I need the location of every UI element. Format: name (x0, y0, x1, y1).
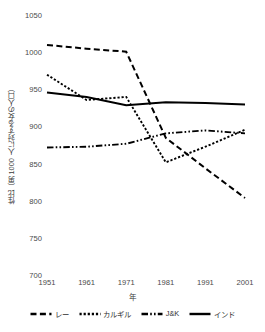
legend-label-レー: レー (55, 308, 69, 319)
sex-ratio-line-chart: 性比（男 1000 人に対する女の人口） 7007508008509009501… (0, 0, 265, 332)
chart-legend: レーカルギルJ&Kインド (0, 308, 265, 319)
legend-swatch-J&K (141, 310, 163, 318)
legend-label-インド: インド (214, 308, 235, 319)
legend-swatch-インド (189, 310, 211, 318)
legend-item-カルギル[interactable]: カルギル (79, 308, 132, 319)
plot-area (0, 0, 265, 332)
series-line-カルギル (47, 75, 245, 163)
legend-item-レー[interactable]: レー (30, 308, 69, 319)
series-line-レー (47, 45, 245, 198)
legend-swatch-レー (30, 310, 52, 318)
legend-label-J&K: J&K (166, 309, 180, 318)
legend-swatch-カルギル (79, 310, 101, 318)
legend-item-インド[interactable]: インド (189, 308, 235, 319)
series-line-J&K (47, 130, 245, 147)
legend-item-J&K[interactable]: J&K (141, 309, 179, 318)
legend-label-カルギル: カルギル (103, 308, 131, 319)
